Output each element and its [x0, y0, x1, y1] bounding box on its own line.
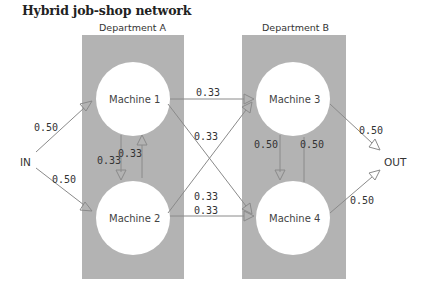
prob-m2-to-m1: 0.33 — [118, 148, 142, 159]
prob-m4-to-out: 0.50 — [350, 195, 374, 206]
network-diagram: Department A Department B Machine 1 Mach… — [0, 0, 430, 295]
prob-m2-to-m4: 0.33 — [194, 205, 218, 216]
in-terminal-label: IN — [20, 156, 31, 168]
machine-2-label: Machine 2 — [109, 213, 160, 224]
prob-in-to-m1: 0.50 — [34, 122, 58, 133]
prob-in-to-m2: 0.50 — [52, 174, 76, 185]
department-a-label: Department A — [99, 22, 167, 33]
machine-1-label: Machine 1 — [109, 94, 160, 105]
prob-m2-to-m3: 0.33 — [194, 191, 218, 202]
prob-m1-to-m3: 0.33 — [196, 87, 220, 98]
machine-3-label: Machine 3 — [269, 94, 320, 105]
out-terminal-label: OUT — [384, 156, 407, 168]
prob-m4-to-m3: 0.50 — [300, 139, 324, 150]
prob-m3-to-m4: 0.50 — [254, 139, 278, 150]
machine-4-label: Machine 4 — [269, 213, 320, 224]
prob-m1-to-m4: 0.33 — [194, 131, 218, 142]
prob-m3-to-out: 0.50 — [359, 125, 383, 136]
department-b-label: Department B — [262, 22, 329, 33]
